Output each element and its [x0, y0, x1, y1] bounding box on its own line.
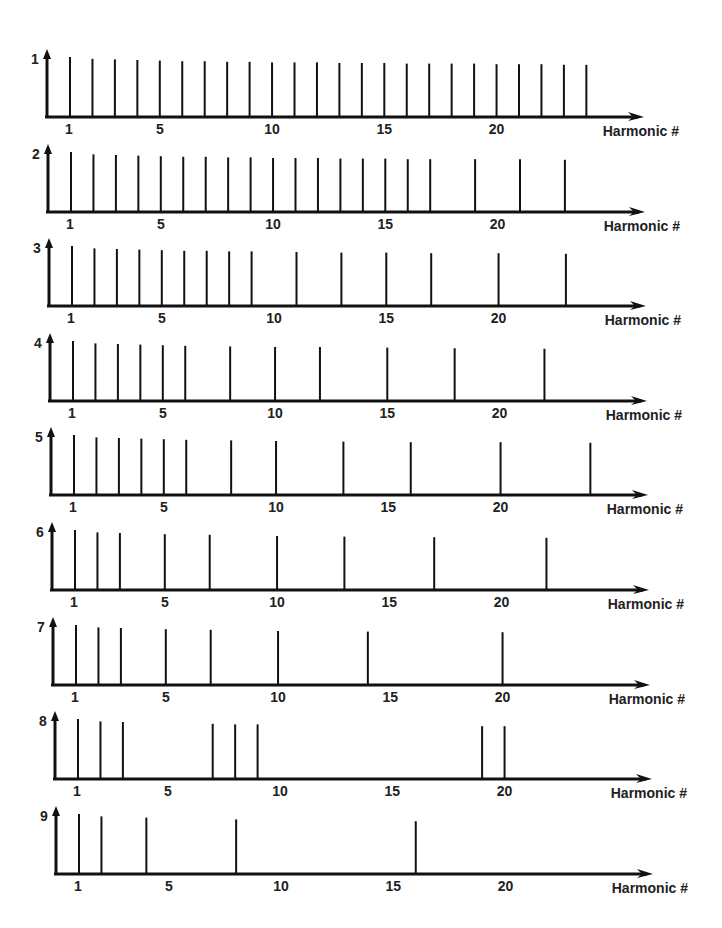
- x-tick-label: 15: [385, 783, 401, 799]
- x-tick-label: 5: [162, 689, 170, 705]
- y-axis-arrow-icon: [46, 333, 54, 343]
- x-axis-label: Harmonic #: [603, 123, 679, 139]
- x-tick-label: 15: [382, 594, 398, 610]
- x-tick-label: 10: [269, 594, 285, 610]
- panel-9: 915101520Harmonic #: [40, 806, 688, 896]
- x-tick-label: 15: [379, 310, 395, 326]
- x-tick-label: 15: [380, 405, 396, 421]
- x-tick-label: 15: [377, 121, 393, 137]
- x-tick-label: 10: [267, 405, 283, 421]
- x-tick-label: 1: [67, 310, 75, 326]
- panel-8: 815101520Harmonic #: [39, 711, 687, 801]
- x-tick-label: 15: [381, 499, 397, 515]
- x-tick-label: 10: [270, 689, 286, 705]
- panel-7: 715101520Harmonic #: [37, 617, 685, 707]
- x-axis-label: Harmonic #: [605, 312, 681, 328]
- x-tick-label: 10: [268, 499, 284, 515]
- x-axis-label: Harmonic #: [604, 218, 680, 234]
- panel-label: 8: [39, 713, 47, 729]
- y-axis-arrow-icon: [44, 144, 52, 154]
- panel-5: 515101520Harmonic #: [35, 427, 683, 517]
- x-tick-label: 15: [383, 689, 399, 705]
- panel-2: 215101520Harmonic #: [32, 144, 680, 234]
- x-tick-label: 10: [265, 216, 281, 232]
- x-tick-label: 5: [164, 783, 172, 799]
- x-tick-label: 1: [73, 783, 81, 799]
- harmonic-spectra-chart: 115101520Harmonic #215101520Harmonic #31…: [0, 0, 722, 928]
- x-tick-label: 1: [68, 405, 76, 421]
- panel-label: 7: [37, 619, 45, 635]
- y-axis-arrow-icon: [52, 806, 60, 816]
- x-tick-label: 1: [70, 594, 78, 610]
- x-tick-label: 10: [273, 878, 289, 894]
- x-tick-label: 20: [492, 405, 508, 421]
- y-axis-arrow-icon: [51, 711, 59, 721]
- x-tick-label: 20: [498, 878, 514, 894]
- x-tick-label: 15: [386, 878, 402, 894]
- x-tick-label: 5: [161, 594, 169, 610]
- x-tick-label: 1: [74, 878, 82, 894]
- x-tick-label: 20: [495, 689, 511, 705]
- x-tick-label: 20: [493, 499, 509, 515]
- panel-label: 2: [32, 146, 40, 162]
- panel-3: 315101520Harmonic #: [33, 238, 681, 328]
- x-tick-label: 1: [65, 121, 73, 137]
- panel-6: 615101520Harmonic #: [36, 522, 684, 612]
- x-tick-label: 20: [497, 783, 513, 799]
- x-tick-label: 1: [69, 499, 77, 515]
- y-axis-arrow-icon: [45, 238, 53, 248]
- x-tick-label: 10: [272, 783, 288, 799]
- y-axis-arrow-icon: [48, 522, 56, 532]
- panel-1: 115101520Harmonic #: [31, 49, 679, 139]
- x-axis-label: Harmonic #: [607, 501, 683, 517]
- x-tick-label: 20: [494, 594, 510, 610]
- x-tick-label: 20: [491, 310, 507, 326]
- y-axis-arrow-icon: [43, 49, 51, 59]
- x-tick-label: 20: [490, 216, 506, 232]
- x-tick-label: 5: [158, 310, 166, 326]
- panel-label: 5: [35, 429, 43, 445]
- panel-label: 3: [33, 240, 41, 256]
- x-tick-label: 5: [157, 216, 165, 232]
- panel-4: 415101520Harmonic #: [34, 333, 682, 423]
- x-tick-label: 5: [165, 878, 173, 894]
- x-axis-label: Harmonic #: [606, 407, 682, 423]
- x-axis-label: Harmonic #: [609, 691, 685, 707]
- x-tick-label: 1: [66, 216, 74, 232]
- x-tick-label: 1: [71, 689, 79, 705]
- x-axis-label: Harmonic #: [612, 880, 688, 896]
- panel-label: 6: [36, 524, 44, 540]
- x-tick-label: 15: [378, 216, 394, 232]
- x-axis-label: Harmonic #: [611, 785, 687, 801]
- x-tick-label: 20: [489, 121, 505, 137]
- x-tick-label: 10: [264, 121, 280, 137]
- x-axis-label: Harmonic #: [608, 596, 684, 612]
- x-tick-label: 10: [266, 310, 282, 326]
- panel-label: 9: [40, 808, 48, 824]
- x-tick-label: 5: [160, 499, 168, 515]
- y-axis-arrow-icon: [47, 427, 55, 437]
- x-tick-label: 5: [156, 121, 164, 137]
- panel-label: 1: [31, 51, 39, 67]
- y-axis-arrow-icon: [49, 617, 57, 627]
- panel-label: 4: [34, 335, 42, 351]
- x-tick-label: 5: [159, 405, 167, 421]
